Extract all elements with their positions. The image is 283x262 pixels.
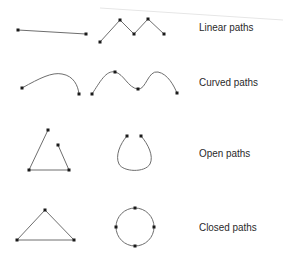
anchor-point (115, 226, 118, 229)
anchor-point (126, 135, 129, 138)
anchor-point (16, 239, 19, 242)
anchor-point (134, 207, 137, 210)
anchor-point (119, 19, 122, 22)
anchor-point (57, 144, 60, 147)
anchor-point (78, 93, 81, 96)
anchor-point (85, 33, 88, 36)
open-path-triangle (29, 130, 69, 170)
anchor-points (16, 18, 179, 248)
anchor-point (68, 169, 71, 172)
label-open-paths: Open paths (199, 146, 250, 160)
anchor-point (134, 245, 137, 248)
anchor-point (137, 88, 140, 91)
label-closed-paths: Closed paths (199, 220, 257, 234)
anchor-point (47, 129, 50, 132)
anchor-point (176, 92, 179, 95)
anchor-point (91, 93, 94, 96)
label-linear-paths: Linear paths (199, 20, 253, 34)
anchor-point (28, 169, 31, 172)
anchor-point (17, 29, 20, 32)
open-path-loop (118, 136, 152, 170)
linear-path-straight (18, 30, 86, 34)
anchor-point (99, 41, 102, 44)
closed-path-triangle (17, 210, 74, 240)
anchor-point (140, 135, 143, 138)
anchor-point (44, 209, 47, 212)
anchor-point (114, 71, 117, 74)
curved-path-wave (92, 72, 177, 94)
anchor-point (73, 239, 76, 242)
closed-path-circle (116, 208, 154, 246)
anchor-point (163, 33, 166, 36)
curved-path-arc (22, 74, 79, 94)
anchor-point (147, 18, 150, 21)
linear-path-zigzag (100, 19, 164, 42)
anchor-point (21, 87, 24, 90)
page-edge-line (100, 8, 283, 20)
anchor-point (153, 226, 156, 229)
label-curved-paths: Curved paths (199, 75, 258, 89)
anchor-point (133, 33, 136, 36)
